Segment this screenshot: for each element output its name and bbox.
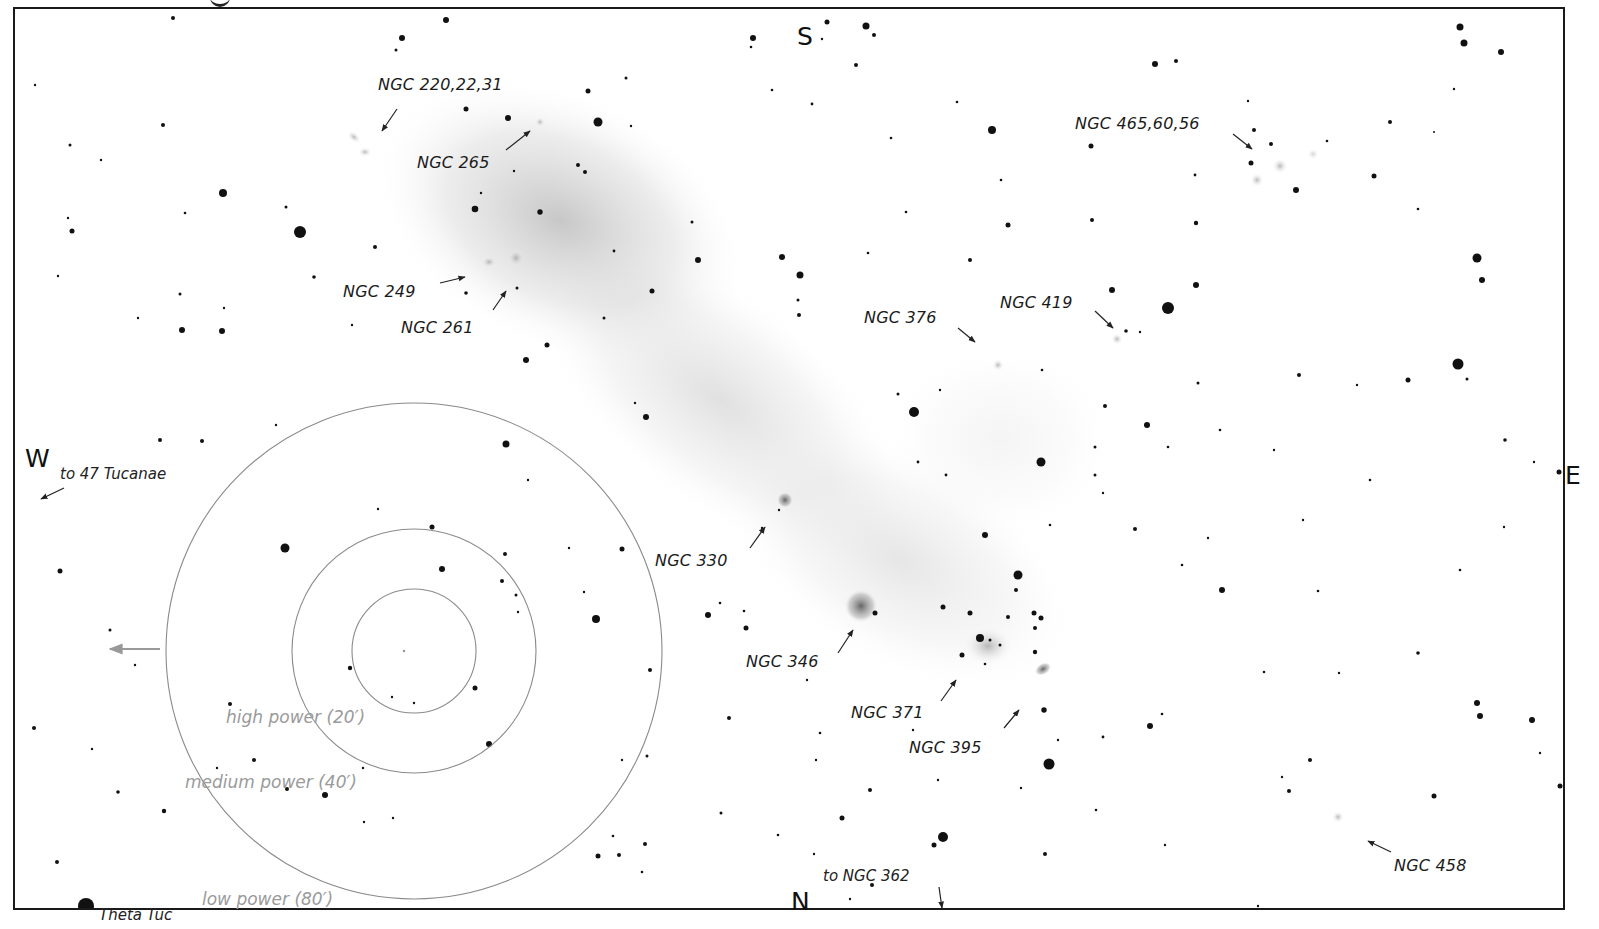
label-ngc-249: NGC 249 (343, 282, 416, 301)
direction-east: E (1565, 461, 1581, 490)
fov-label-medium: medium power (40′) (185, 772, 357, 792)
label-ngc-376: NGC 376 (864, 308, 937, 327)
label-ngc-265: NGC 265 (417, 153, 490, 172)
star-label-theta-tuc: Theta Tuc (99, 906, 172, 924)
label-ngc-465: NGC 465,60,56 (1075, 114, 1200, 133)
label-ngc-371: NGC 371 (851, 703, 924, 722)
eyepiece-field-circles (166, 403, 662, 899)
label-ngc-330: NGC 330 (655, 551, 728, 570)
direction-west: W (25, 444, 50, 473)
label-ngc-458: NGC 458 (1394, 856, 1467, 875)
pointer-47-tucanae: to 47 Tucanae (60, 465, 166, 483)
high-power-circle (352, 589, 476, 713)
pointer-ngc-362: to NGC 362 (823, 867, 910, 885)
label-ngc-220: NGC 220,22,31 (378, 75, 503, 94)
medium-power-circle (292, 529, 536, 773)
low-power-circle (166, 403, 662, 899)
direction-south: S (797, 22, 813, 51)
label-ngc-395: NGC 395 (909, 738, 982, 757)
fov-label-low: low power (80′) (202, 889, 333, 909)
direction-north: N (791, 887, 810, 916)
label-ngc-261: NGC 261 (401, 318, 474, 337)
label-ngc-346: NGC 346 (746, 652, 819, 671)
fov-label-high: high power (20′) (226, 707, 365, 727)
label-ngc-419: NGC 419 (1000, 293, 1073, 312)
